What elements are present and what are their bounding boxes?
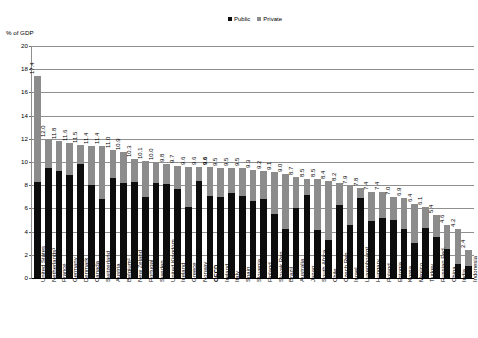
bar-column[interactable]: 6.4: [409, 46, 420, 278]
legend-swatch-private: [257, 17, 261, 21]
bar-column[interactable]: 10.3: [129, 46, 140, 278]
bar-column[interactable]: 10.0: [151, 46, 162, 278]
y-axis-tick-mark: [29, 278, 32, 279]
bar-value-label: 10.3: [126, 145, 132, 157]
x-axis-tick-label: Korea: [407, 266, 413, 282]
x-axis-tick-label: Belgium²: [126, 258, 132, 282]
bar-column[interactable]: 17.4: [32, 46, 43, 278]
bar-value-label: 9.1: [266, 162, 272, 170]
bar-value-label: 7.4: [374, 182, 380, 190]
x-axis-tick-label: China: [451, 266, 457, 282]
bar-column[interactable]: 8.5: [312, 46, 323, 278]
bar-value-label: 17.4: [29, 62, 35, 74]
bar-value-label: 8.5: [299, 169, 305, 177]
bar-value-label: 4.6: [439, 214, 445, 222]
category-label-slot: Mexico: [410, 282, 421, 338]
y-axis-tick-label: 6: [25, 205, 28, 211]
bar-segment-private: [174, 166, 181, 189]
y-axis-tick-label: 8: [25, 182, 28, 188]
bar-column[interactable]: 11.6: [64, 46, 75, 278]
bar-value-label: 8.4: [320, 170, 326, 178]
bar-stack[interactable]: 9.5: [217, 168, 224, 278]
bar-column[interactable]: 8.4: [323, 46, 334, 278]
category-label-slot: Australia: [292, 282, 303, 338]
category-label-slot: Italy: [227, 282, 238, 338]
bar-column[interactable]: 11.5: [75, 46, 86, 278]
bar-column[interactable]: 4.6: [442, 46, 453, 278]
x-axis-tick-label: Indonesia: [472, 256, 478, 282]
x-axis-tick-label: Portugal: [148, 260, 154, 282]
bar-column[interactable]: 12.0: [43, 46, 54, 278]
bar-column[interactable]: 11.4: [97, 46, 108, 278]
category-label-slot: United States: [32, 282, 43, 338]
bar-column[interactable]: 6.9: [399, 46, 410, 278]
bar-column[interactable]: 6.1: [420, 46, 431, 278]
bar-stack[interactable]: 9.5: [228, 168, 235, 278]
x-axis-tick-label: Russian Fed.: [440, 247, 446, 282]
x-axis-tick-label: India: [461, 269, 467, 282]
bar-column[interactable]: 8.2: [334, 46, 345, 278]
bar-value-label: 9.2: [256, 161, 262, 169]
x-axis-tick-label: Israel: [353, 267, 359, 282]
y-axis-tick-label: 14: [21, 112, 28, 118]
bar-column[interactable]: 5.4: [431, 46, 442, 278]
bar-column[interactable]: 9.0: [280, 46, 291, 278]
category-label-slot: Canada: [86, 282, 97, 338]
category-label-slot: Ireland: [216, 282, 227, 338]
bar-stack[interactable]: 8.2: [336, 183, 343, 278]
x-axis-tick-label: Turkey: [429, 264, 435, 282]
legend-label-public: Public: [234, 16, 250, 22]
bar-column[interactable]: 10.1: [140, 46, 151, 278]
bar-value-label: 8.7: [288, 167, 294, 175]
bar-value-label: 10.0: [148, 148, 154, 160]
x-axis-tick-label: South Africa: [321, 250, 327, 282]
category-label-slot: Sweden: [151, 282, 162, 338]
bar-segment-private: [250, 170, 257, 201]
bar-value-label: 4.2: [450, 219, 456, 227]
bar-segment-private: [444, 225, 451, 249]
bar-column[interactable]: 8.7: [291, 46, 302, 278]
bar-segment-private: [88, 146, 95, 185]
bar-value-label: 8.2: [331, 173, 337, 181]
category-label-slot: Belgium²: [119, 282, 130, 338]
bar-column[interactable]: 2.4: [463, 46, 474, 278]
y-axis-title: % of GDP: [6, 30, 34, 36]
bar-column[interactable]: 10.9: [118, 46, 129, 278]
bar-segment-private: [411, 204, 418, 243]
x-axis-tick-label: France: [61, 263, 67, 282]
bar-segment-private: [304, 179, 311, 194]
bar-value-label: 9.8: [159, 154, 165, 162]
category-label-slot: Slovak Rep.: [270, 282, 281, 338]
bar-value-label: 9.0: [277, 163, 283, 171]
category-label-slot: United Kingdom: [162, 282, 173, 338]
bar-column[interactable]: 7.4: [377, 46, 388, 278]
bar-column[interactable]: 11.0: [107, 46, 118, 278]
category-label-slot: Greece: [183, 282, 194, 338]
x-axis-tick-label: United Kingdom: [170, 239, 176, 282]
x-axis-tick-label: OECD: [213, 265, 219, 282]
bar-segment-private: [465, 250, 472, 266]
bar-segment-private: [260, 171, 267, 199]
category-label-slot: Luxembourg³: [356, 282, 367, 338]
bar-value-label: 11.8: [51, 128, 57, 139]
bar-value-label: 12.0: [40, 125, 46, 137]
bar-column[interactable]: 7.0: [388, 46, 399, 278]
bar-value-label: 7.0: [385, 186, 391, 194]
bar-stack[interactable]: 9.5: [239, 168, 246, 278]
bar-segment-private: [77, 145, 84, 165]
x-axis-tick-label: New Zeland: [137, 250, 143, 282]
bar-column[interactable]: 7.4: [366, 46, 377, 278]
x-axis-tick-label: Slovenia: [256, 259, 262, 282]
bar-column[interactable]: 7.9: [345, 46, 356, 278]
bar-segment-private: [56, 141, 63, 171]
bar-column[interactable]: 11.8: [54, 46, 65, 278]
bar-column[interactable]: 7.8: [355, 46, 366, 278]
category-label-slot: New Zeland: [129, 282, 140, 338]
x-axis-tick-label: Finland: [267, 262, 273, 282]
x-axis-category-labels: United StatesNetherlands¹FranceGermanyDe…: [32, 282, 475, 338]
x-axis-tick-label: Hungary: [375, 259, 381, 282]
bar-value-label: 8.5: [310, 169, 316, 177]
bar-column[interactable]: 9.1: [269, 46, 280, 278]
bar-column[interactable]: 8.5: [302, 46, 313, 278]
bar-column[interactable]: 11.4: [86, 46, 97, 278]
